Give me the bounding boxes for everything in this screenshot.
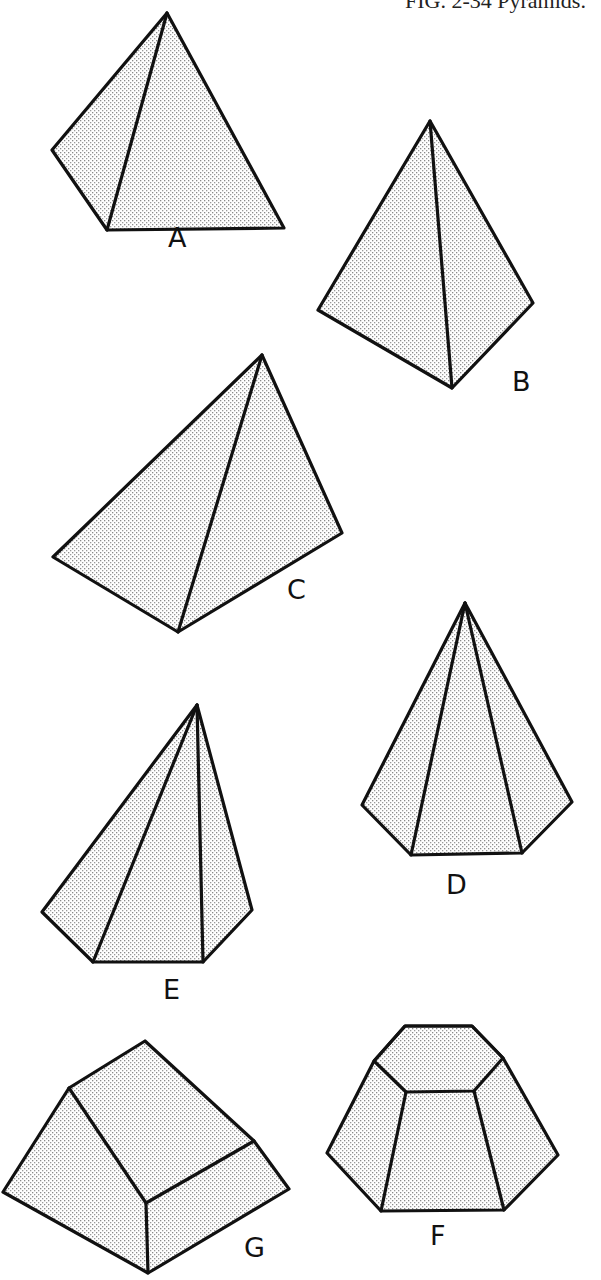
frustum-f: [327, 1026, 558, 1211]
label-d: D: [446, 871, 467, 898]
pyramid-e: [42, 705, 252, 962]
label-c: C: [287, 576, 306, 603]
label-f: F: [430, 1222, 446, 1249]
label-b: B: [512, 368, 531, 395]
pyramids-diagram: [0, 0, 601, 1280]
label-e: E: [163, 976, 180, 1003]
pyramid-d: [362, 603, 572, 855]
label-a: A: [168, 224, 186, 251]
pyramid-a: [52, 13, 284, 230]
label-g: G: [244, 1234, 265, 1261]
pyramid-b: [318, 121, 533, 388]
